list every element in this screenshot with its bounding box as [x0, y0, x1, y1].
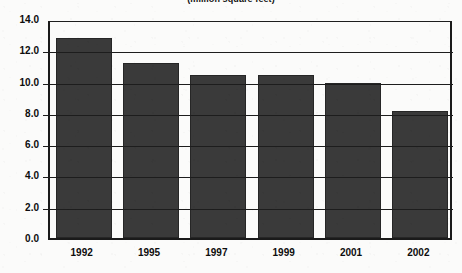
y-axis-tick-label: 12.0: [0, 45, 39, 56]
gridline-4.0: [48, 177, 452, 178]
bar-1999: [258, 75, 314, 238]
x-axis-tick-label: 2002: [388, 247, 448, 258]
y-tick-left-6.0: [43, 146, 49, 147]
x-axis-tick-label: 1999: [254, 247, 314, 258]
chart-page: (million square feet) 0.02.04.06.08.010.…: [0, 0, 462, 273]
y-tick-left-8.0: [43, 115, 49, 116]
gridline-6.0: [48, 146, 452, 147]
y-tick-left-4.0: [43, 177, 49, 178]
gridline-8.0: [48, 115, 452, 116]
y-tick-right-8.0: [447, 115, 453, 116]
bar-2001: [325, 83, 381, 238]
gridline-14.0: [48, 21, 452, 22]
gridline-10.0: [48, 84, 452, 85]
bar-2002: [392, 111, 448, 238]
y-tick-right-6.0: [447, 146, 453, 147]
x-axis-tick-label: 1995: [119, 247, 179, 258]
chart-title: (million square feet): [0, 0, 462, 4]
y-axis-tick-label: 6.0: [0, 139, 39, 150]
y-tick-left-12.0: [43, 52, 49, 53]
plot-area: [48, 21, 452, 240]
y-axis-tick-label: 4.0: [0, 170, 39, 181]
y-tick-left-10.0: [43, 84, 49, 85]
x-axis-tick-label: 1997: [186, 247, 246, 258]
y-axis-tick-label: 8.0: [0, 108, 39, 119]
x-axis-tick-label: 1992: [52, 247, 112, 258]
bar-1995: [123, 63, 179, 238]
x-axis-tick-label: 2001: [321, 247, 381, 258]
y-axis-tick-label: 2.0: [0, 202, 39, 213]
y-axis-tick-label: 0.0: [0, 233, 39, 244]
y-tick-right-12.0: [447, 52, 453, 53]
y-axis-tick-label: 14.0: [0, 14, 39, 25]
y-tick-left-2.0: [43, 209, 49, 210]
y-tick-right-10.0: [447, 84, 453, 85]
gridline-2.0: [48, 209, 452, 210]
bar-1997: [190, 75, 246, 238]
y-tick-right-2.0: [447, 209, 453, 210]
gridline-12.0: [48, 52, 452, 53]
y-axis-tick-label: 10.0: [0, 77, 39, 88]
y-tick-right-4.0: [447, 177, 453, 178]
